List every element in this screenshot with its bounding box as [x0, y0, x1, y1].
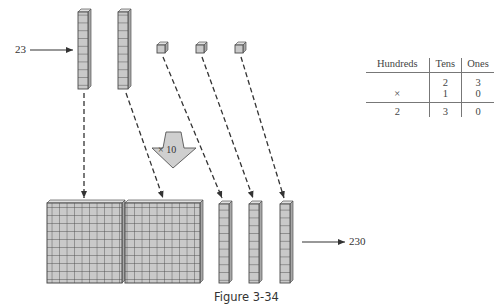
bottom-rod-1 — [219, 201, 232, 283]
multiplier-label: × 10 — [158, 144, 176, 155]
table-row: 2 3 — [366, 73, 494, 89]
unit-cube-3 — [235, 42, 246, 53]
top-rod-1 — [78, 9, 91, 89]
input-number-label: 23 — [15, 43, 26, 55]
place-value-table: Hundreds Tens Ones 2 3 × 1 0 2 3 0 — [366, 58, 494, 117]
unit-cube-1 — [157, 42, 168, 53]
unit-cube-2 — [196, 42, 207, 53]
result-hundreds: 2 — [366, 103, 429, 118]
table-cell: 2 — [429, 73, 461, 89]
table-cell: 1 — [429, 88, 461, 103]
result-tens: 3 — [429, 103, 461, 118]
hundred-flat-1 — [47, 200, 125, 283]
hundred-flat-2 — [125, 200, 203, 283]
table-cell: 0 — [462, 88, 494, 103]
base-ten-diagram — [0, 0, 494, 308]
table-row: × 1 0 — [366, 88, 494, 103]
bottom-rod-2 — [249, 201, 262, 283]
output-number-label: 230 — [349, 235, 366, 247]
table-header-row: Hundreds Tens Ones — [366, 58, 494, 73]
table-cell: 3 — [462, 73, 494, 89]
table-cell — [366, 73, 429, 89]
header-hundreds: Hundreds — [366, 58, 429, 73]
mapping-arrows — [84, 57, 284, 198]
multiply-sign: × — [366, 88, 429, 103]
bottom-rod-3 — [280, 201, 293, 283]
header-tens: Tens — [429, 58, 461, 73]
figure-caption: Figure 3-34 — [214, 290, 279, 304]
result-ones: 0 — [462, 103, 494, 118]
top-rod-2 — [118, 9, 131, 89]
header-ones: Ones — [462, 58, 494, 73]
table-result-row: 2 3 0 — [366, 103, 494, 118]
